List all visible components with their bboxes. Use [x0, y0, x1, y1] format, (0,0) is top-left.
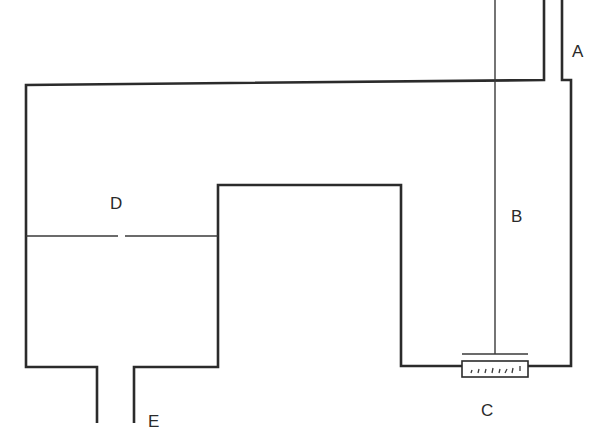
- element-c: [462, 361, 528, 377]
- apparatus-diagram: A B C D E: [0, 0, 616, 446]
- vessel-outline: [26, 0, 571, 423]
- label-a: A: [572, 42, 584, 61]
- label-b: B: [511, 207, 522, 226]
- label-d: D: [110, 194, 122, 213]
- label-c: C: [481, 401, 493, 420]
- label-e: E: [148, 412, 159, 431]
